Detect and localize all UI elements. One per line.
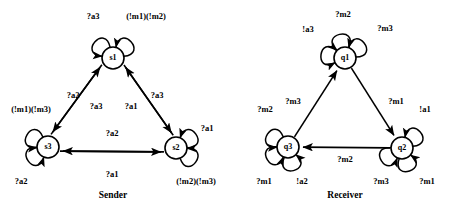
self-loop-label-s1-0: ?a3 — [87, 11, 100, 21]
edge-label-s2-s1: ?a1 — [125, 101, 138, 111]
self-loop-label-q3-4: ?m1 — [256, 176, 272, 186]
self-loop-label-q3-3: ?m2 — [257, 104, 273, 114]
edge-label-q1-q2: ?m1 — [388, 96, 404, 106]
state-label-s2: s2 — [172, 143, 179, 152]
edge-label-s1-s3: ?a3 — [90, 101, 103, 111]
state-label-s3: s3 — [44, 142, 51, 151]
diagram-sender: ?a2?a3?a1?a3?a2?a1?a3(!m1)(!m2)(!m1)(!m3… — [11, 11, 216, 200]
edge-label-s2-s3: ?a2 — [106, 128, 119, 138]
edge-label-s3-s2: ?a1 — [106, 169, 119, 179]
diagram-canvas: ?a2?a3?a1?a3?a2?a1?a3(!m1)(!m2)(!m1)(!m3… — [0, 0, 461, 219]
self-loop-label-s1-1: (!m1)(!m2) — [126, 11, 166, 21]
self-loop-label-q3-5: !a2 — [296, 176, 307, 186]
self-loop-label-q1-1: ?m2 — [335, 9, 351, 19]
edge-label-q3-q1: ?m3 — [285, 96, 301, 106]
state-label-s1: s1 — [109, 53, 116, 62]
state-machine-figure: ?a2?a3?a1?a3?a2?a1?a3(!m1)(!m2)(!m1)(!m3… — [0, 0, 461, 219]
edge-label-s1-s2: ?a3 — [151, 90, 164, 100]
self-loop-label-s3-3: ?a2 — [15, 176, 28, 186]
self-loop-label-s3-2: (!m1)(!m3) — [11, 104, 51, 114]
caption-receiver: Receiver — [327, 190, 363, 200]
edge-q3-to-q1 — [294, 71, 336, 137]
edge-s1-to-s3 — [53, 65, 102, 132]
caption-sender: Sender — [99, 190, 128, 200]
self-loop-label-q2-6: !a1 — [419, 104, 430, 114]
self-loop-label-q1-2: ?m3 — [377, 23, 393, 33]
diagram-receiver: ?m3?m1?m2!a3?m2?m3?m2?m1!a2!a1?m3?m1q1q3… — [256, 9, 435, 200]
state-label-q3: q3 — [284, 142, 292, 151]
edge-label-q2-q3: ?m2 — [337, 154, 353, 164]
self-loop-label-q2-7: ?m3 — [373, 176, 389, 186]
self-loop-label-s2-4: ?a1 — [201, 123, 214, 133]
state-label-q2: q2 — [398, 143, 406, 152]
self-loop-label-s2-5: (!m2)(!m3) — [176, 176, 216, 186]
edge-q2-to-q3 — [303, 147, 390, 148]
self-loop-label-q2-8: ?m1 — [419, 176, 435, 186]
diagram-render-root: ?a2?a3?a1?a3?a2?a1?a3(!m1)(!m2)(!m1)(!m3… — [11, 9, 435, 200]
state-label-q1: q1 — [341, 53, 349, 62]
edge-s3-to-s2 — [60, 151, 161, 152]
self-loop-label-q1-0: !a3 — [302, 24, 313, 34]
edge-s1-to-s2 — [124, 65, 172, 133]
